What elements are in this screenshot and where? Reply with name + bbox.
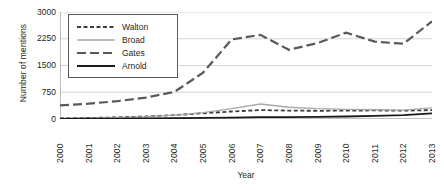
legend-item-broad[interactable]: Broad (76, 33, 171, 46)
dark-solid-line-icon (76, 61, 116, 71)
y-tick-label: 1500 (24, 61, 56, 70)
line-chart-figure: Number of mentions 0750150022503000 2000… (0, 0, 444, 190)
light-solid-line-icon (76, 35, 116, 45)
x-tick-label: 2011 (370, 123, 380, 163)
x-tick-label: 2004 (169, 123, 179, 163)
x-tick-label: 2013 (427, 123, 437, 163)
x-tick-label: 2001 (84, 123, 94, 163)
x-tick-label: 2000 (55, 123, 65, 163)
long-dashed-line-icon (76, 48, 116, 58)
x-tick-label: 2007 (255, 123, 265, 163)
x-tick-label: 2003 (141, 123, 151, 163)
legend-item-gates[interactable]: Gates (76, 46, 171, 59)
y-axis-tick-labels: 0750150022503000 (24, 8, 56, 122)
x-axis-title: Year (60, 170, 432, 180)
short-dashed-line-icon (76, 22, 116, 32)
x-tick-label: 2006 (227, 123, 237, 163)
legend-item-arnold[interactable]: Arnold (76, 59, 171, 72)
chart-legend: WaltonBroadGatesArnold (68, 14, 178, 78)
legend-item-label: Walton (122, 22, 148, 32)
y-tick-label: 3000 (24, 8, 56, 17)
x-tick-label: 2002 (112, 123, 122, 163)
x-axis-tick-labels: 2000200120022003200420052006200720082009… (60, 122, 432, 162)
x-tick-label: 2012 (398, 123, 408, 163)
y-tick-label: 0 (24, 115, 56, 124)
legend-item-label: Broad (122, 35, 145, 45)
series-line-arnold (60, 113, 432, 119)
legend-item-label: Gates (122, 48, 145, 58)
legend-item-walton[interactable]: Walton (76, 20, 171, 33)
y-tick-label: 750 (24, 88, 56, 97)
x-tick-label: 2008 (284, 123, 294, 163)
x-tick-label: 2009 (313, 123, 323, 163)
legend-item-label: Arnold (122, 61, 147, 71)
y-tick-label: 2250 (24, 34, 56, 43)
x-tick-label: 2010 (341, 123, 351, 163)
x-tick-label: 2005 (198, 123, 208, 163)
